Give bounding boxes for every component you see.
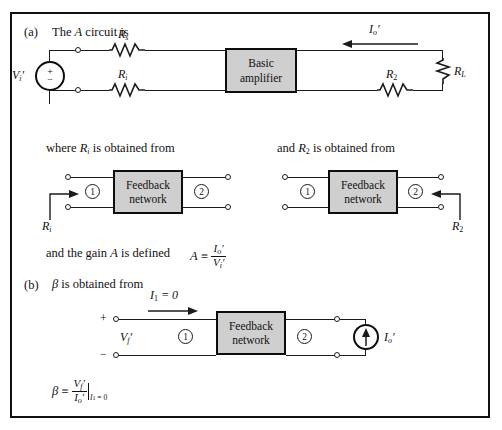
figure-canvas: (a) The A circuit is + − Vi′ Rs Ri Basic… <box>0 0 502 430</box>
gain-numerator: Io′ <box>211 243 226 257</box>
node-ml-top-right <box>225 174 231 180</box>
input-current-arrow <box>148 305 200 317</box>
wire-amp-to-r2 <box>297 90 377 91</box>
r2-measure-label: R2 <box>452 219 463 234</box>
fb-b-line-1: Feedback <box>229 319 273 333</box>
fb-right-line-2: network <box>344 192 382 206</box>
wire-r2-to-load <box>413 90 443 91</box>
input-current-sub: 1 <box>154 294 158 303</box>
port-1-part-b: 1 <box>178 329 193 344</box>
input-current-label: I1 = 0 <box>150 288 178 303</box>
ri-measure-sub: i <box>49 225 51 234</box>
wire-b-bot-left <box>119 355 216 356</box>
resistor-r2-sub: 2 <box>393 73 397 82</box>
resistor-rl-symbol <box>435 58 451 84</box>
wire-mr-top-left <box>288 177 328 178</box>
wire-b-bot-to-src <box>340 355 366 356</box>
wire-to-rs <box>81 50 109 51</box>
source-label-vi: Vi′ <box>12 68 24 83</box>
gain-formula-relation: ≡ <box>201 249 208 263</box>
gain-definition-text: and the gain A is defined <box>46 247 170 260</box>
node-mr-top-right <box>438 174 444 180</box>
input-voltage-label: Vf′ <box>120 330 132 345</box>
input-voltage-sub: f <box>127 336 129 345</box>
mid-left-caption-post: is obtained from <box>90 141 175 155</box>
resistor-rl-label: RL <box>454 64 466 79</box>
gain-formula: A ≡ Io′ Vi′ <box>190 243 226 271</box>
wire-amp-to-load-top <box>297 50 443 51</box>
feedback-network-block-b: Feedback network <box>216 311 286 355</box>
current-source-arrow-icon <box>360 328 372 346</box>
fb-left-line-1: Feedback <box>126 178 170 192</box>
source-minus-sign: − <box>47 76 53 85</box>
wire-b-top-left <box>119 319 216 320</box>
mid-right-caption: and R2 is obtained from <box>277 142 395 156</box>
port-1-mid-left: 1 <box>85 184 100 199</box>
port-2-part-b: 2 <box>297 329 312 344</box>
part-a-caption-symbol: A <box>75 25 83 39</box>
wire-ml-bot-right <box>183 207 225 208</box>
resistor-rl-sub: L <box>461 70 465 79</box>
wire-ml-top-left <box>71 177 113 178</box>
resistor-r2-symbol <box>377 82 413 98</box>
beta-denominator: Io′ <box>72 392 87 405</box>
fb-b-line-2: network <box>232 333 270 347</box>
gain-text-symbol: A <box>110 246 118 260</box>
wire-source-top-stub <box>49 50 50 63</box>
part-b-label: (b) <box>24 279 39 292</box>
source-label-sub: i <box>19 74 21 83</box>
part-b-caption-text: is obtained from <box>58 277 143 291</box>
part-a-label: (a) <box>24 26 38 39</box>
gain-text-pre: and the gain <box>46 246 110 260</box>
gain-formula-lhs: A <box>190 249 198 263</box>
mid-right-caption-pre: and <box>277 141 298 155</box>
node-ml-bot-right <box>225 204 231 210</box>
gain-text-post: is defined <box>118 246 170 260</box>
output-current-label: Io′ <box>369 22 380 37</box>
port-2-mid-left: 2 <box>194 184 209 199</box>
feedback-network-block-right: Feedback network <box>328 170 398 214</box>
current-source-label: Io′ <box>384 330 395 345</box>
ri-measure-label: Ri <box>42 219 52 234</box>
fb-right-line-1: Feedback <box>341 178 385 192</box>
output-current-arrow <box>340 36 418 48</box>
part-b-caption: β is obtained from <box>52 278 143 291</box>
beta-condition-value: = 0 <box>97 393 107 402</box>
wire-b-top-to-src <box>340 319 366 320</box>
resistor-rs-label: Rs <box>118 27 128 42</box>
mid-right-caption-post: is obtained from <box>310 141 395 155</box>
wire-mr-top-right <box>398 177 438 178</box>
voltage-source-vi: + − <box>35 61 65 91</box>
resistor-ri-label: Ri <box>118 67 128 82</box>
amplifier-line-2: amplifier <box>240 71 282 85</box>
wire-load-bottom <box>442 83 443 91</box>
feedback-network-block-left: Feedback network <box>113 170 183 214</box>
beta-numerator-sub: f <box>80 382 82 391</box>
gain-formula-fraction: Io′ Vi′ <box>211 243 226 271</box>
mid-left-caption-pre: where <box>46 141 80 155</box>
gain-denominator-sub: i <box>220 261 222 270</box>
basic-amplifier-block: Basic amplifier <box>225 48 297 93</box>
wire-source-top <box>49 50 77 51</box>
wire-b-top-right <box>286 319 336 320</box>
input-minus-sign: − <box>100 347 107 362</box>
amplifier-line-1: Basic <box>248 56 274 70</box>
ri-measure-arrow <box>48 186 80 220</box>
beta-numerator: Vf′ <box>72 378 87 392</box>
resistor-r2-label: R2 <box>386 67 397 82</box>
wire-ml-top-right <box>183 177 225 178</box>
current-source-sub: o <box>388 336 392 345</box>
wire-mr-bot-left <box>288 207 328 208</box>
input-current-equals: = 0 <box>161 288 178 302</box>
beta-evaluation-bar <box>88 383 89 400</box>
beta-lhs: β <box>52 384 58 398</box>
beta-condition: I1 = 0 <box>90 393 107 402</box>
r2-measure-arrow <box>428 186 462 220</box>
wire-source-bot <box>49 90 77 91</box>
fb-left-line-2: network <box>129 192 167 206</box>
wire-to-ri <box>81 90 109 91</box>
wire-rs-to-amp <box>145 50 225 51</box>
port-1-mid-right: 1 <box>300 184 315 199</box>
port-2-mid-right: 2 <box>408 184 423 199</box>
wire-source-bot-stub <box>49 91 50 104</box>
